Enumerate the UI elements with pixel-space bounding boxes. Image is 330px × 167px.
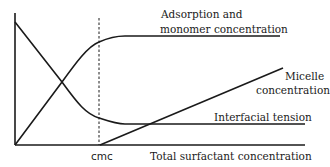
x-axis-label: Total surfactant concentration	[150, 150, 312, 162]
adsorption-label-line1: Adsorption and	[161, 8, 243, 20]
micelle-label-line2: concentration	[256, 84, 330, 96]
interfacial-tension-label: Interfacial tension	[214, 111, 312, 123]
interfacial-tension-curve	[15, 22, 305, 124]
micelle-concentration-line	[100, 68, 283, 145]
micelle-label-line1: Micelle	[285, 70, 324, 82]
cmc-tick-label: cmc	[91, 150, 113, 162]
adsorption-label-line2: monomer concentration	[160, 23, 288, 35]
adsorption-curve	[15, 36, 280, 145]
